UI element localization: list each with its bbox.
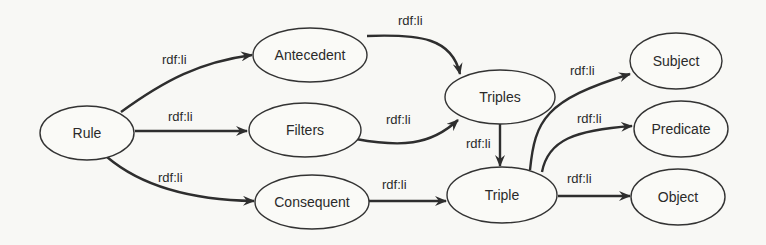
node-predicate: Predicate [634, 101, 728, 157]
edge-label: rdf:li [567, 171, 592, 186]
node-label: Object [658, 189, 699, 205]
node-triple: Triple [447, 167, 557, 223]
edge-label: rdf:li [386, 112, 411, 127]
node-label: Triples [479, 89, 521, 105]
edge-filters-triples: rdf:li [356, 112, 458, 143]
node-label: Rule [73, 125, 102, 141]
diagram-canvas: rdf:li rdf:li rdf:li rdf:li rdf:li rdf:l… [0, 0, 766, 245]
edge-label: rdf:li [398, 13, 423, 28]
node-label: Triple [485, 187, 520, 203]
node-consequent: Consequent [255, 175, 369, 229]
edge-triple-object: rdf:li [558, 171, 630, 196]
edge-label: rdf:li [570, 63, 595, 78]
edge-antecedent-triples: rdf:li [367, 13, 460, 74]
node-label: Consequent [274, 194, 350, 210]
edge-label: rdf:li [168, 109, 193, 124]
edge-label: rdf:li [577, 111, 602, 126]
node-subject: Subject [630, 33, 722, 89]
edge-rule-antecedent: rdf:li [121, 52, 252, 112]
edge-rule-filters: rdf:li [135, 109, 247, 131]
node-label: Filters [286, 122, 324, 138]
node-antecedent: Antecedent [253, 28, 367, 82]
edge-triple-predicate: rdf:li [542, 111, 632, 172]
node-label: Antecedent [275, 47, 346, 63]
edge-label: rdf:li [162, 52, 187, 67]
edge-label: rdf:li [158, 170, 183, 185]
edge-consequent-triple: rdf:li [369, 177, 446, 201]
node-triples: Triples [445, 70, 555, 124]
edge-label: rdf:li [382, 177, 407, 192]
edge-triples-triple: rdf:li [466, 124, 500, 166]
node-filters: Filters [249, 103, 361, 157]
edge-rule-consequent: rdf:li [107, 157, 254, 201]
node-label: Subject [653, 53, 700, 69]
node-object: Object [631, 169, 725, 225]
node-label: Predicate [651, 121, 710, 137]
edge-label: rdf:li [466, 136, 491, 151]
node-rule: Rule [40, 106, 134, 160]
